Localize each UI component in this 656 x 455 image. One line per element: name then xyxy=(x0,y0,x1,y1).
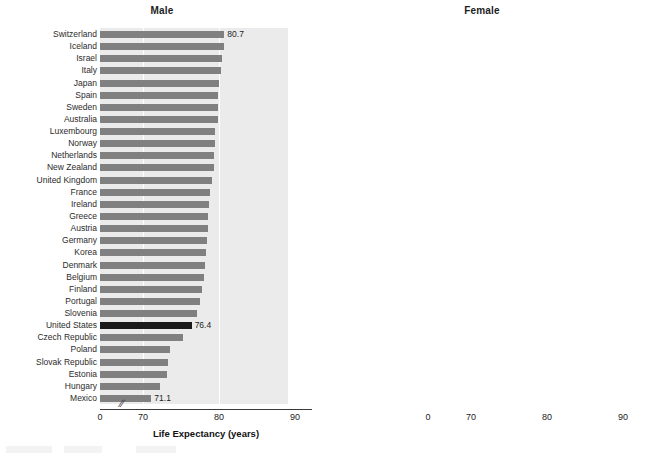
bar xyxy=(100,67,221,74)
panel-male: Male SwitzerlandIcelandIsraelItalyJapanS… xyxy=(0,0,328,455)
category-label: France xyxy=(71,188,97,197)
category-label: Iceland xyxy=(70,42,97,51)
bar-highlight-united-states xyxy=(100,322,192,329)
bar xyxy=(100,274,204,281)
bar xyxy=(100,80,219,87)
bar xyxy=(100,262,205,269)
x-tick-0: 0 xyxy=(416,412,440,422)
category-label: Mexico xyxy=(70,394,97,403)
plot-area-male: SwitzerlandIcelandIsraelItalyJapanSpainS… xyxy=(100,28,288,404)
bar xyxy=(100,310,197,317)
category-label: Slovak Republic xyxy=(36,358,97,367)
category-label: United States xyxy=(46,321,97,330)
bar xyxy=(100,140,215,147)
category-label: Germany xyxy=(62,236,97,245)
bar xyxy=(100,334,183,341)
value-label: 80.7 xyxy=(227,30,244,39)
category-label: Norway xyxy=(68,139,97,148)
category-label: Japan xyxy=(74,79,97,88)
category-label: Slovenia xyxy=(64,309,97,318)
category-label: Australia xyxy=(64,115,97,124)
bar xyxy=(100,225,208,232)
category-label: Italy xyxy=(81,66,97,75)
bar xyxy=(100,201,209,208)
category-label: Belgium xyxy=(66,273,97,282)
value-label: 76.4 xyxy=(195,321,212,330)
bar xyxy=(100,286,202,293)
bar xyxy=(100,249,206,256)
category-label: Poland xyxy=(71,345,97,354)
panel-title-female: Female xyxy=(342,5,622,16)
x-tick-70: 70 xyxy=(131,412,155,422)
bar xyxy=(100,298,200,305)
category-label: Netherlands xyxy=(51,151,97,160)
category-label: Czech Republic xyxy=(37,333,97,342)
bar xyxy=(100,213,208,220)
category-label: Denmark xyxy=(63,261,97,270)
bar xyxy=(100,395,151,402)
gridline-80 xyxy=(219,28,220,404)
bar xyxy=(100,164,214,171)
bar xyxy=(100,152,214,159)
category-label: Ireland xyxy=(71,200,97,209)
value-label: 71.1 xyxy=(154,394,171,403)
category-label: Korea xyxy=(74,248,97,257)
panel-female: Female JapanSpainFranceItalyKoreaSwitzer… xyxy=(328,0,656,455)
bar xyxy=(100,55,222,62)
x-axis-title-male: Life Expectancy (years) xyxy=(100,428,312,439)
bar xyxy=(100,189,210,196)
figure-life-expectancy: Male SwitzerlandIcelandIsraelItalyJapanS… xyxy=(0,0,656,455)
x-tick-0: 0 xyxy=(88,412,112,422)
category-label: Hungary xyxy=(65,382,97,391)
category-label: Israel xyxy=(76,54,97,63)
bar xyxy=(100,104,218,111)
category-label: New Zealand xyxy=(47,163,97,172)
bar xyxy=(100,177,212,184)
bar xyxy=(100,92,218,99)
x-tick-90: 90 xyxy=(283,412,307,422)
bar xyxy=(100,237,207,244)
category-label: Estonia xyxy=(69,370,97,379)
category-label: Luxembourg xyxy=(50,127,97,136)
category-label: Austria xyxy=(71,224,97,233)
bar xyxy=(100,371,167,378)
bar xyxy=(100,359,168,366)
category-label: United Kingdom xyxy=(37,176,97,185)
category-label: Greece xyxy=(69,212,97,221)
x-tick-70: 70 xyxy=(459,412,483,422)
panel-title-male: Male xyxy=(22,5,302,16)
bar xyxy=(100,43,224,50)
x-tick-80: 80 xyxy=(535,412,559,422)
bar xyxy=(100,346,170,353)
bar xyxy=(100,31,224,38)
bar xyxy=(100,383,160,390)
category-label: Sweden xyxy=(66,103,97,112)
category-label: Portugal xyxy=(65,297,97,306)
x-tick-80: 80 xyxy=(207,412,231,422)
scan-artifact xyxy=(6,446,236,453)
bar xyxy=(100,128,215,135)
x-axis-line-male xyxy=(100,409,312,410)
category-label: Finland xyxy=(69,285,97,294)
bar xyxy=(100,116,218,123)
category-label: Spain xyxy=(75,91,97,100)
x-tick-90: 90 xyxy=(611,412,635,422)
category-label: Switzerland xyxy=(53,30,97,39)
